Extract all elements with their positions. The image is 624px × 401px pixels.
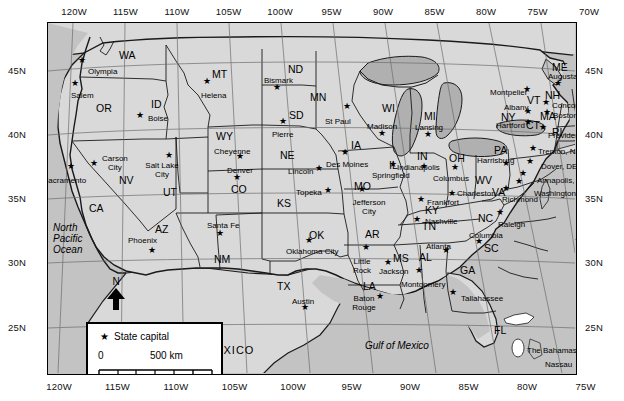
lon-tick-bottom-115W: 115W	[105, 381, 130, 392]
capital-label: Hartford	[496, 122, 525, 130]
capital-label: Carson City	[102, 155, 128, 172]
lon-tick-top-75W: 75W	[527, 6, 547, 17]
state-label-PA: PA	[494, 145, 507, 156]
capital-label: Santa Fe	[207, 222, 239, 230]
map-screenshot: 120W115W110W105W100W95W90W85W80W75W70W 1…	[0, 0, 624, 401]
capital-star-icon: ★	[78, 56, 86, 65]
lon-tick-top-100W: 100W	[267, 6, 293, 17]
state-label-AR: AR	[365, 229, 380, 240]
capital-star-icon: ★	[341, 148, 349, 157]
state-label-AL: AL	[419, 252, 432, 263]
state-label-NC: NC	[478, 213, 493, 224]
scale-top-start-label: 0	[98, 350, 104, 361]
capital-star-icon: ★	[542, 98, 550, 107]
capital-star-icon: ★	[165, 151, 173, 160]
lon-tick-top-120W: 120W	[61, 6, 87, 17]
lon-tick-bottom-95W: 95W	[341, 381, 361, 392]
capital-label: Trenton, NJ	[538, 148, 577, 156]
map-legend: ★ State capital 0 500 km 0 500 m	[86, 322, 223, 375]
capital-label: Salem	[71, 92, 94, 100]
state-label-NE: NE	[280, 150, 295, 161]
capital-star-icon: ★	[413, 215, 421, 224]
capital-star-icon: ★	[496, 208, 504, 217]
capital-label: Annapolis, MD	[537, 177, 577, 185]
state-label-NM: NM	[214, 254, 230, 265]
lon-tick-bottom-110W: 110W	[164, 381, 189, 392]
capital-label: Indianapolis	[397, 164, 440, 172]
capital-label: Frankfort	[427, 199, 459, 207]
capital-label: Austin	[292, 298, 314, 306]
capital-label: Phoenix	[128, 237, 157, 245]
state-label-ID: ID	[151, 99, 162, 110]
capital-star-icon: ★	[324, 186, 332, 195]
state-label-UT: UT	[163, 187, 177, 198]
capital-label: Atlanta	[426, 243, 451, 251]
lon-tick-bottom-80W: 80W	[517, 381, 537, 392]
capital-label: Charleston	[457, 190, 496, 198]
capital-label: Salt Lake City	[145, 162, 178, 179]
state-label-GA: GA	[460, 265, 475, 276]
capital-label: Nashville	[425, 218, 457, 226]
lon-tick-bottom-85W: 85W	[458, 381, 478, 392]
lat-tick-right-40N: 40N	[585, 129, 603, 140]
lon-tick-bottom-75W: 75W	[575, 381, 595, 392]
lon-tick-top-70W: 70W	[579, 6, 599, 17]
capital-star-icon: ★	[362, 243, 370, 252]
state-label-MS: MS	[393, 253, 409, 264]
capital-star-icon: ★	[90, 159, 98, 168]
capital-star-icon: ★	[136, 111, 144, 120]
state-label-IA: IA	[351, 140, 361, 151]
capital-star-icon: ★	[448, 189, 456, 198]
lat-tick-left-25N: 25N	[8, 322, 26, 333]
north-arrow-glyph	[105, 288, 127, 310]
lon-tick-top-90W: 90W	[373, 6, 393, 17]
state-label-MI: MI	[424, 111, 436, 122]
capital-star-icon: ★	[539, 123, 547, 132]
capital-star-icon: ★	[376, 292, 384, 301]
capital-star-icon: ★	[417, 195, 425, 204]
state-label-OR: OR	[96, 103, 112, 114]
capital-star-icon: ★	[543, 108, 551, 117]
capital-label: Richmond	[502, 196, 538, 204]
capital-star-icon: ★	[524, 118, 532, 127]
capital-label: Harrisburg	[477, 157, 514, 165]
country-label-the-bahamas: The Bahamas	[527, 347, 577, 355]
water-label-north-atlantic-ocean: North Atlantic Ocean	[576, 220, 577, 253]
state-label-VT: VT	[527, 95, 540, 106]
capital-star-icon: ★	[315, 164, 323, 173]
north-arrow-label: N	[112, 276, 119, 287]
state-label-WI: WI	[382, 103, 395, 114]
country-label-nassau: Nassau	[545, 361, 572, 369]
capital-label: Baton Rouge	[352, 295, 376, 312]
capital-star-icon: ★	[526, 157, 534, 166]
capital-label: Pierre	[272, 131, 293, 139]
state-label-ND: ND	[288, 64, 303, 75]
lon-tick-top-95W: 95W	[321, 6, 341, 17]
capital-star-icon: ★	[305, 236, 313, 245]
lon-tick-top-105W: 105W	[216, 6, 242, 17]
star-icon: ★	[100, 332, 109, 342]
lon-tick-bottom-100W: 100W	[280, 381, 306, 392]
water-label-gulf-of-mexico: Gulf of Mexico	[365, 341, 429, 351]
capital-label: Albany	[504, 104, 528, 112]
capital-label: St Paul	[325, 118, 351, 126]
state-label-CO: CO	[231, 184, 247, 195]
capital-label: Washington, D.C	[534, 190, 577, 198]
lon-tick-top-85W: 85W	[424, 6, 444, 17]
state-label-WV: WV	[475, 175, 492, 186]
lat-tick-left-40N: 40N	[8, 129, 26, 140]
capital-star-icon: ★	[449, 288, 457, 297]
state-label-WA: WA	[119, 50, 136, 61]
capital-label: Dover, DE	[541, 163, 577, 171]
capital-label: Sacramento	[47, 177, 86, 185]
capital-star-icon: ★	[67, 162, 75, 171]
capital-label: Providence	[548, 132, 577, 140]
capital-label: Augusta	[548, 73, 577, 81]
state-label-LA: LA	[363, 281, 376, 292]
map-canvas[interactable]: WAORIDMTNDSDNEWYNVUTCOKSCAAZNMOKTXARLAMS…	[47, 22, 577, 375]
capital-star-icon: ★	[343, 102, 351, 111]
capital-star-icon: ★	[203, 77, 211, 86]
capital-label: Denver	[227, 167, 253, 175]
capital-label: Jefferson City	[353, 199, 386, 216]
capital-label: Columbus	[433, 175, 469, 183]
